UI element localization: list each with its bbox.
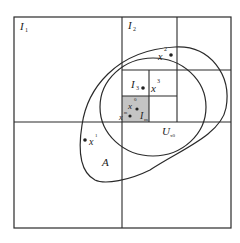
svg-text:x: x (127, 101, 132, 111)
point-x0-dot (135, 107, 138, 110)
svg-text:3: 3 (157, 78, 160, 84)
point-x3-dot (141, 86, 145, 90)
point-x3: x 3 (141, 78, 160, 94)
svg-text:1: 1 (25, 27, 28, 33)
diagram: I 1 I 2 I 3 I m A U x0 x 1 x 2 x 3 x 0 (0, 0, 240, 243)
svg-text:x: x (150, 82, 156, 94)
point-x1-dot (83, 138, 87, 142)
point-x1: x 1 (83, 133, 98, 147)
svg-text:2: 2 (133, 26, 136, 32)
svg-text:x: x (118, 113, 123, 122)
point-xm-dot (128, 114, 131, 117)
point-x2-dot (169, 53, 173, 57)
svg-text:3: 3 (136, 85, 139, 91)
set-u-boundary (100, 58, 206, 156)
svg-text:A: A (101, 156, 109, 168)
label-i1: I 1 (19, 20, 28, 33)
svg-text:x: x (157, 51, 163, 62)
label-i3: I 3 (130, 78, 139, 91)
label-i2: I 2 (127, 19, 136, 32)
svg-text:x0: x0 (170, 133, 176, 138)
label-u: U x0 (162, 125, 176, 138)
svg-text:2: 2 (164, 46, 167, 52)
svg-text:1: 1 (95, 133, 98, 138)
svg-text:x: x (88, 136, 94, 147)
label-a: A (101, 156, 109, 168)
svg-text:m: m (144, 117, 148, 122)
